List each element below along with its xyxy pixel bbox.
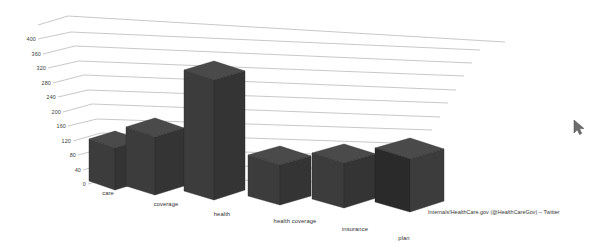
bar-side-face [344, 154, 376, 208]
bar-front-face [126, 127, 155, 195]
y-axis-tick-labels: 400 360 320 280 240 200 160 120 80 40 0 [27, 36, 86, 187]
y-tick-label: 320 [37, 65, 46, 71]
gridline-280 [53, 75, 456, 90]
y-tick-label: 280 [42, 80, 51, 86]
bar-front-face [375, 148, 410, 212]
y-tick-label: 120 [62, 138, 71, 144]
bar-front-face [89, 139, 115, 190]
bar-health-coverage[interactable] [248, 146, 311, 205]
bar-side-face [214, 71, 245, 200]
gridline-360 [43, 46, 472, 63]
cat-label-coverage: coverage [154, 201, 179, 207]
bar-health[interactable] [184, 61, 245, 200]
bar-chart-3d: 400 360 320 280 240 200 160 120 80 40 0 [0, 0, 608, 248]
gridline-200 [63, 104, 440, 117]
gridline-240 [58, 90, 448, 103]
bar-front-face [184, 70, 214, 200]
gridline-320 [48, 61, 464, 76]
cat-label-insurance: insurance [342, 226, 368, 232]
bar-coverage[interactable] [126, 118, 184, 195]
gridline-top-edge [38, 16, 505, 42]
chart-container: 400 360 320 280 240 200 160 120 80 40 0 [0, 0, 608, 248]
y-tick-label: 80 [70, 152, 76, 158]
bar-plan[interactable] [375, 138, 444, 212]
cat-label-care: care [102, 190, 114, 196]
gridline-160 [68, 119, 432, 130]
cat-label-health-coverage: health coverage [274, 218, 317, 224]
y-tick-label: 400 [27, 36, 36, 42]
bar-side-face [155, 128, 184, 195]
cat-label-plan: plan [398, 235, 409, 241]
bar-side-face [410, 149, 444, 212]
y-tick-label: 0 [83, 181, 86, 187]
mouse-pointer-icon [574, 120, 584, 135]
y-tick-label: 40 [75, 167, 81, 173]
source-caption: Internals!HealthCare.gov (@HealthCareGov… [428, 209, 560, 215]
y-tick-label: 360 [32, 51, 41, 57]
y-tick-label: 240 [47, 94, 56, 100]
y-tick-label: 160 [57, 123, 66, 129]
cat-label-health: health [214, 211, 230, 217]
y-tick-label: 200 [52, 109, 61, 115]
bar-insurance[interactable] [312, 144, 376, 208]
